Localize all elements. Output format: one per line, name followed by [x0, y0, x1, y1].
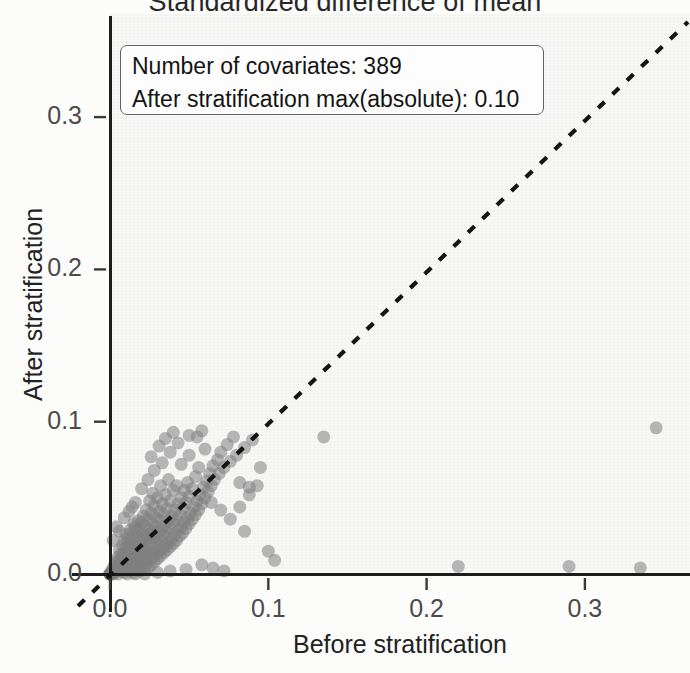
data-point	[238, 525, 251, 538]
data-point	[634, 561, 647, 574]
data-point	[191, 430, 204, 443]
annotation-box: Number of covariates: 389 After stratifi…	[120, 45, 544, 115]
data-point	[107, 534, 120, 547]
data-point	[452, 560, 465, 573]
data-point	[145, 450, 158, 463]
data-point	[198, 443, 211, 456]
data-point	[317, 430, 330, 443]
data-point	[233, 500, 246, 513]
x-tick-label: 0.1	[223, 594, 313, 623]
y-tick-label: 0.2	[14, 253, 82, 282]
data-point	[254, 461, 267, 474]
y-tick-label: 0.1	[14, 406, 82, 435]
data-point	[206, 561, 219, 574]
data-point	[126, 500, 139, 513]
data-point	[227, 430, 240, 443]
y-tick-label: 0.0	[14, 558, 82, 587]
data-point	[167, 426, 180, 439]
data-point	[156, 456, 169, 469]
data-point	[183, 449, 196, 462]
data-point	[192, 461, 205, 474]
data-points-group	[104, 421, 663, 580]
annotation-line-covariates: Number of covariates: 389	[132, 50, 533, 83]
data-point	[650, 421, 663, 434]
data-point	[268, 554, 281, 567]
data-point	[563, 560, 576, 573]
data-point	[151, 566, 164, 579]
x-tick-label: 0.0	[65, 594, 155, 623]
data-point	[214, 504, 227, 517]
data-point	[251, 479, 264, 492]
x-axis-label: Before stratification	[110, 630, 690, 659]
annotation-line-max-absolute: After stratification max(absolute): 0.10	[132, 83, 533, 116]
x-tick-label: 0.3	[540, 594, 630, 623]
y-tick-label: 0.3	[14, 101, 82, 130]
data-point	[224, 513, 237, 526]
x-tick-label: 0.2	[382, 594, 472, 623]
scatter-plot-figure: Standardized difference of mean After st…	[0, 0, 690, 673]
data-point	[195, 558, 208, 571]
